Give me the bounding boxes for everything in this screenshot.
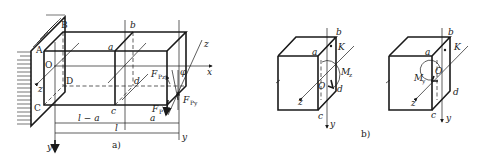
part-a-cantilever-beam: A B C D O a b c d x z z y y φ F Pz F Py … [17,15,212,152]
point-b-label: b [448,27,454,37]
bending-diagram: A B C D O a b c d x z z y y φ F Pz F Py … [0,0,483,162]
point-B-label: B [61,20,68,30]
point-A-label: A [35,45,43,55]
point-c-label: c [431,110,436,120]
point-d-label: d [337,84,343,94]
svg-text:F: F [182,95,190,105]
svg-text:z: z [349,71,352,78]
point-c-label: c [111,106,116,116]
axis-z-label: z [297,97,303,107]
point-b-label: b [336,27,342,37]
point-O-label: O [435,66,443,76]
point-a-label: a [108,42,113,52]
point-a-label: a [425,47,430,57]
svg-text:Pz: Pz [158,73,165,80]
svg-text:P: P [159,108,163,115]
point-O-label: O [318,81,326,91]
caption-a: a) [112,140,121,150]
point-d-label: d [453,87,459,97]
caption-b: b) [361,129,370,139]
point-d-label: d [134,76,140,86]
point-K-label: K [337,42,346,52]
point-C-label: C [34,103,41,113]
axis-x-label: x [207,67,212,77]
moment-Mz-label: M z [340,67,352,78]
point-b-label: b [130,20,136,30]
dim-a: a [150,113,155,123]
moment-My-label: M y [413,73,426,85]
point-a-label: a [312,47,317,57]
svg-text:y: y [421,77,426,85]
axis-y-label: y [46,142,53,152]
part-b-element-My: a b c d K O y z M y [386,27,468,123]
point-D-label: D [66,76,73,86]
axis-y-label: y [445,113,452,123]
angle-phi-label: φ [180,67,187,77]
point-O-label: O [45,60,52,70]
part-b-element-Mz: a b c d K O y z M z [276,27,354,129]
dim-l-minus-a: l − a [78,113,100,123]
axis-z-label: z [37,84,43,94]
axis-y-right-label: y [181,132,188,142]
fixed-wall-support [17,15,65,126]
force-Fpy-label: F Py [182,95,198,107]
point-K-label: K [453,42,462,52]
svg-text:F: F [150,69,158,79]
force-Fpz-label: F Pz [150,69,165,80]
point-c-label: c [318,111,323,121]
dim-l: l [115,123,118,133]
axis-z-label: z [410,98,416,108]
svg-text:Py: Py [190,99,198,107]
axis-y-label: y [329,119,336,129]
axis-z-right-label: z [203,39,209,49]
